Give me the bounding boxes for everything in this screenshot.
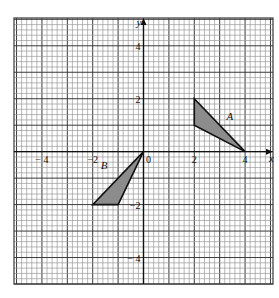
coordinate-grid: x y − 4−202442−2− 4 AB (0, 0, 279, 298)
x-tick-label: 2 (192, 154, 197, 165)
x-tick-label: −2 (87, 154, 98, 165)
y-tick-label: 2 (136, 94, 141, 105)
y-tick-label: −2 (130, 200, 141, 211)
y-axis-label: y (136, 16, 142, 28)
x-tick-label: 4 (243, 154, 248, 165)
x-axis-label: x (268, 152, 274, 164)
triangle-b-label: B (101, 159, 108, 171)
x-tick-label: 0 (146, 154, 151, 165)
triangle-a-label: A (225, 110, 233, 122)
y-tick-label: 4 (136, 41, 141, 52)
y-tick-label: − 4 (127, 253, 140, 264)
x-tick-label: − 4 (35, 154, 48, 165)
